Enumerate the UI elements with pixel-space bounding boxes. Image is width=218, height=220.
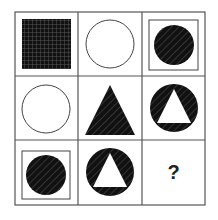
empty-circle-shape <box>22 85 70 133</box>
hatched-circle-white-triangle <box>150 84 198 132</box>
grid-square-shape <box>22 19 71 69</box>
empty-circle-shape <box>86 20 134 68</box>
framed-hatched-circle <box>149 20 198 70</box>
missing-cell-question-mark: ? <box>142 140 205 205</box>
hatched-circle-white-triangle <box>86 148 134 196</box>
framed-hatched-circle <box>22 151 70 199</box>
hatched-triangle-shape <box>85 85 135 135</box>
